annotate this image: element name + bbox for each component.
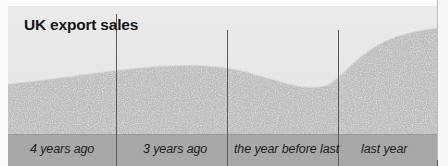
chart-title: UK export sales — [24, 16, 138, 34]
plate-right-edge — [437, 0, 438, 160]
axis-label-3-years-ago: 3 years ago — [143, 142, 207, 156]
scan-margin-top — [0, 0, 448, 6]
period-divider-1 — [116, 14, 117, 166]
scan-margin-left — [0, 0, 8, 166]
period-divider-2 — [227, 30, 228, 166]
baseline-rule — [8, 134, 438, 135]
chart-plate: UK export sales 4 years ago 3 years ago … — [8, 6, 438, 166]
axis-label-the-year-before-last: the year before last — [234, 142, 339, 156]
axis-label-4-years-ago: 4 years ago — [30, 142, 94, 156]
chart-plot-area: UK export sales 4 years ago 3 years ago … — [8, 6, 438, 166]
uk-export-sales-figure: UK export sales 4 years ago 3 years ago … — [0, 0, 448, 166]
scan-margin-right — [438, 0, 448, 166]
axis-label-last-year: last year — [361, 142, 407, 156]
